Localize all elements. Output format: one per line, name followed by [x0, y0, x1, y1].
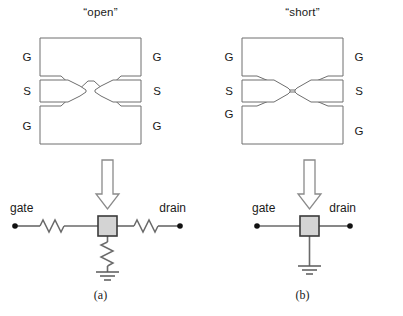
panel-title-short: “short”: [202, 6, 403, 18]
down-arrow-icon: [298, 160, 321, 209]
terminal-dot-gate: [254, 223, 260, 229]
pad-label-mid-right-S: S: [355, 85, 363, 97]
panel-title-open: “open”: [0, 6, 201, 18]
panel-caption-b: (b): [202, 288, 403, 303]
pad-label-mid-right-S: S: [153, 85, 161, 97]
panel-open: “open” G G S S G G: [0, 0, 201, 316]
pad-label-top-left-G: G: [23, 51, 32, 63]
panel-short: “short” G G S S G G: [202, 0, 403, 316]
terminal-label-drain: drain: [329, 201, 356, 215]
pad-label-bottom-right-G: G: [355, 125, 364, 137]
resistor-gate: [40, 220, 64, 232]
pad-label-bottom-left-G: G: [225, 108, 234, 120]
equivalent-circuit-open: gate drain: [0, 156, 201, 286]
terminal-dot-gate: [12, 223, 18, 229]
ground-icon-open: [96, 272, 119, 280]
pad-layout-open: G G S S G G: [0, 26, 201, 156]
terminal-dot-drain: [347, 223, 353, 229]
pad-label-bottom-right-G: G: [153, 120, 162, 132]
pad-label-mid-left-S: S: [225, 85, 233, 97]
equivalent-circuit-short: gate drain: [202, 156, 403, 286]
panel-caption-a: (a): [0, 288, 201, 303]
pad-label-top-left-G: G: [225, 51, 234, 63]
pad-layout-short: G G S S G G: [202, 26, 403, 156]
resistor-drain: [134, 220, 158, 232]
dut-box: [300, 216, 319, 236]
ground-icon-short: [298, 266, 321, 274]
gsg-probe-pad-open-short-figure: “open” G G S S G G: [0, 0, 403, 316]
resistor-shunt: [101, 242, 113, 266]
pad-label-mid-left-S: S: [23, 85, 31, 97]
pad-label-top-right-G: G: [153, 51, 162, 63]
terminal-label-gate: gate: [252, 201, 276, 215]
down-arrow-icon: [96, 160, 119, 209]
dut-box: [98, 216, 117, 236]
terminal-dot-drain: [177, 223, 183, 229]
pad-label-top-right-G: G: [355, 51, 364, 63]
terminal-label-drain: drain: [159, 201, 186, 215]
terminal-label-gate: gate: [10, 201, 34, 215]
pad-label-bottom-left-G: G: [23, 120, 32, 132]
